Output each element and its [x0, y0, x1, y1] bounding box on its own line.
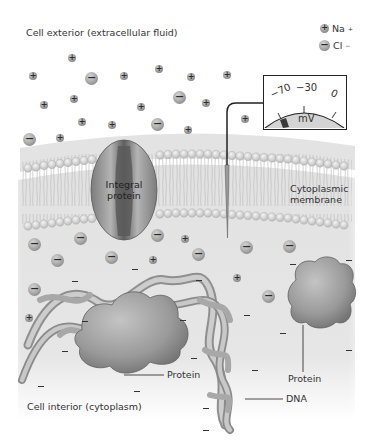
sodium-ion: +	[40, 101, 48, 109]
dna-label: DNA	[286, 394, 307, 405]
chloride-ion: −	[240, 241, 253, 254]
negative-charge	[38, 386, 44, 387]
cell-interior-label: Cell interior (cytoplasm)	[27, 402, 142, 413]
negative-charge	[252, 370, 258, 371]
negative-charge	[72, 281, 78, 282]
sodium-ion: +	[241, 115, 249, 123]
protein-left-label: Protein	[167, 370, 200, 381]
chloride-ion: −	[262, 290, 275, 303]
negative-charge	[82, 321, 88, 322]
sodium-ion: +	[233, 274, 241, 282]
sodium-ion: +	[223, 71, 231, 79]
tick-minus-30: −30	[296, 82, 317, 94]
sodium-ion: +	[149, 256, 157, 264]
negative-charge	[191, 358, 197, 359]
sodium-ion: +	[202, 99, 210, 107]
chloride-ion: −	[28, 238, 41, 251]
cytoplasmic-membrane-label: Cytoplasmic membrane	[290, 184, 348, 206]
membrane-potential-diagram: Cell exterior (extracellular fluid) Cell…	[0, 0, 371, 442]
negative-charge	[346, 260, 352, 261]
sodium-ion: +	[25, 314, 33, 322]
sodium-ion: +	[56, 134, 64, 142]
negative-charge	[244, 315, 250, 316]
protein-right-shape	[288, 257, 356, 328]
negative-charge	[280, 333, 286, 334]
negative-charge	[62, 351, 68, 352]
negative-charge	[290, 264, 296, 265]
negative-charge	[180, 320, 186, 321]
negative-charge	[134, 391, 140, 392]
chloride-ion: −	[283, 240, 296, 253]
chloride-ion: −	[85, 72, 98, 85]
voltmeter-unit: mV	[298, 113, 315, 125]
chloride-ion: −	[51, 254, 64, 267]
voltmeter: −70 −30 0 mV	[263, 75, 347, 130]
chloride-ion: −	[151, 118, 164, 131]
legend-sodium: + Na+	[320, 23, 353, 34]
sodium-ion: +	[70, 95, 78, 103]
protein-right-label: Protein	[288, 374, 321, 385]
chloride-ion: −	[74, 232, 87, 245]
chloride-ion: −	[192, 248, 205, 261]
sodium-ion: +	[155, 65, 163, 73]
sodium-ion: +	[137, 103, 145, 111]
chloride-ion: −	[105, 251, 118, 264]
sodium-ion: +	[187, 73, 195, 81]
negative-charge	[203, 430, 209, 431]
negative-charge	[203, 408, 209, 409]
negative-charge	[196, 280, 202, 281]
sodium-ion: +	[184, 126, 192, 134]
integral-protein-label: Integral protein	[104, 180, 144, 202]
sodium-ion: +	[29, 72, 37, 80]
chloride-ion: −	[28, 283, 41, 296]
sodium-ion: +	[108, 121, 116, 129]
sodium-ion: +	[78, 118, 86, 126]
legend-chloride: − Cl−	[319, 40, 350, 51]
chloride-ion: −	[151, 229, 164, 242]
negative-charge	[346, 350, 352, 351]
chloride-ion-icon: −	[319, 40, 330, 51]
sodium-ion: +	[181, 235, 189, 243]
chloride-ion: −	[173, 91, 186, 104]
sodium-ion-icon: +	[320, 24, 329, 33]
sodium-ion: +	[68, 54, 76, 62]
cell-exterior-label: Cell exterior (extracellular fluid)	[26, 28, 178, 39]
negative-charge	[132, 269, 138, 270]
chloride-ion: −	[23, 133, 36, 146]
sodium-ion: +	[120, 72, 128, 80]
